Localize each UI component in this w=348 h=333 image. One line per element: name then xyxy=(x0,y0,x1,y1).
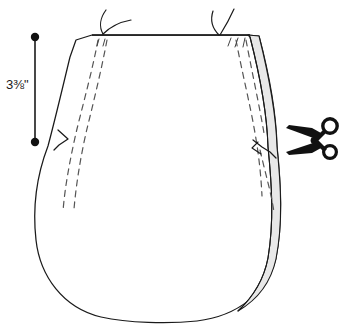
measurement-label: 3⅜" xyxy=(6,78,29,91)
scissors-ring-lower xyxy=(324,146,337,159)
diagram-canvas: 3⅜" xyxy=(0,0,348,333)
top-left-arrow-head xyxy=(103,20,131,34)
scissors-blade-lower xyxy=(286,142,321,155)
scissors-icon xyxy=(286,119,337,159)
measurement-guide xyxy=(31,33,39,146)
top-right-curved-arrow xyxy=(212,9,234,35)
top-left-curved-arrow xyxy=(101,10,131,34)
measurement-endpoint-top xyxy=(31,33,39,41)
scissors-blade-upper xyxy=(286,125,321,139)
top-left-arrow-shaft xyxy=(101,10,106,34)
measurement-endpoint-bottom xyxy=(31,138,39,146)
scissors-ring-upper xyxy=(323,119,337,133)
top-right-arrow-shaft-right xyxy=(220,9,234,35)
top-right-arrow-shaft-left xyxy=(212,11,219,35)
pattern-diagram xyxy=(0,0,348,333)
